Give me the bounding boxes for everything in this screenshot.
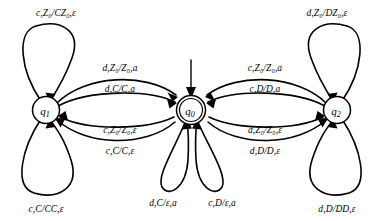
transition-q2-self-top[interactable] — [309, 24, 361, 103]
transition-q1-self-bottom[interactable] — [22, 118, 73, 195]
state-node-q2[interactable]: q2 — [324, 97, 351, 124]
transition-label-t-q0-self-right: c,D/ε,a — [208, 199, 236, 209]
transition-q1-self-top[interactable] — [23, 24, 75, 103]
transition-q1-q0-inner[interactable] — [58, 93, 177, 108]
transition-q2-q0-inner[interactable] — [206, 93, 325, 108]
transition-label-t-q0-q1-inner: c,Z₀/Z₀,ε — [103, 126, 136, 136]
transition-label-t-q2-q0-inner: c,D/D,a — [250, 85, 281, 95]
transition-label-t-q2-q0-outer: c,Z₀/Z₀,a — [248, 64, 282, 74]
transition-label-t-q0-self-left: d,C/ε,a — [149, 199, 177, 209]
transition-label-t-q1-q0-inner: d,C/C,a — [105, 85, 135, 95]
transition-label-t-q2-self-bottom: d,D/DD,ε — [318, 205, 355, 215]
state-node-q0[interactable]: q0 — [177, 96, 206, 125]
transition-label-t-q1-self-top: c,Z₀/CZ₀,ε — [36, 9, 76, 19]
transition-label-t-q0-q2-inner: d,Z₀/Z₀,ε — [248, 126, 282, 136]
transition-label-t-q1-q0-outer: d,Z₀/Z₀,a — [103, 64, 138, 74]
state-diagram-canvas: q1 q0 q2 — [0, 0, 383, 221]
transition-q2-self-bottom[interactable] — [310, 118, 361, 195]
transition-label-t-q1-self-bottom: c,C/CC,ε — [28, 205, 63, 215]
start-arrow — [186, 60, 196, 99]
state-node-q1[interactable]: q1 — [33, 97, 60, 124]
transition-q0-self-left[interactable] — [161, 119, 192, 191]
transition-label-t-q2-self-top: d,Z₀/DZ₀,ε — [307, 9, 348, 19]
transition-label-t-q0-q1-outer: c,C/C,ε — [106, 147, 135, 157]
transition-label-t-q0-q2-outer: d,D/D,ε — [250, 147, 280, 157]
